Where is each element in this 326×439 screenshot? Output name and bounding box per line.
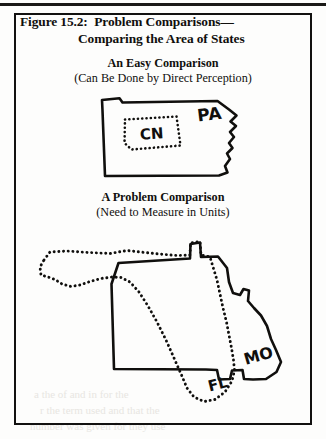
pa-cn-svg: PA CN (14, 88, 312, 188)
cn-label: CN (139, 124, 164, 144)
figure-title: Figure 15.2: Problem Comparisons— Compar… (16, 14, 310, 47)
fl-mo-svg: MO FL (14, 222, 312, 422)
panel-problem-subheading: (Need to Measure in Units) (14, 205, 312, 221)
panel-problem-caption: A Problem Comparison (Need to Measure in… (14, 190, 312, 221)
problem-comparison-diagram: MO FL (14, 222, 312, 422)
page-top-rule (0, 3, 326, 6)
panel-problem-heading: A Problem Comparison (14, 190, 312, 205)
panel-easy-caption: An Easy Comparison (Can Be Done by Direc… (14, 56, 312, 87)
easy-comparison-diagram: PA CN (14, 88, 312, 188)
panel-easy-heading: An Easy Comparison (14, 56, 312, 71)
panel-easy-subheading: (Can Be Done by Direct Perception) (14, 71, 312, 87)
figure-title-line-2: Comparing the Area of States (16, 31, 310, 48)
figure-title-line-1: Figure 15.2: Problem Comparisons— (16, 14, 310, 31)
pa-label: PA (196, 103, 223, 126)
mo-label: MO (242, 343, 276, 369)
